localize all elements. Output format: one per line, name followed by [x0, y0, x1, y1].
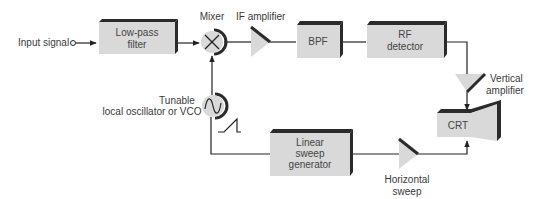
oscillator-icon [202, 94, 227, 118]
sweep-gen-label-line3: generator [289, 159, 332, 170]
oscillator-label-line1: Tunable [159, 95, 195, 106]
linear-sweep-generator-block: Linear sweep generator [270, 129, 353, 176]
crt-block: CRT [437, 100, 501, 141]
spectrum-analyzer-block-diagram: Input signal Low-pass filter Mixer IF am… [0, 0, 534, 199]
lowpass-label-line1: Low-pass [116, 27, 159, 38]
input-terminal-icon [71, 41, 76, 46]
lowpass-filter-block: Low-pass filter [99, 19, 178, 54]
mixer-icon [201, 30, 226, 54]
rf-detector-block: RF detector [367, 21, 447, 58]
sweep-gen-label-line2: sweep [296, 148, 325, 159]
oscillator-label-line2: local oscillator or VCO [103, 106, 202, 117]
crt-label: CRT [448, 120, 468, 131]
bpf-block: BPF [297, 21, 343, 58]
sweep-gen-label-line1: Linear [296, 137, 324, 148]
rf-detector-label-line1: RF [398, 29, 411, 40]
horizontal-sweep-label-line1: Horizontal [384, 174, 429, 185]
lowpass-label-line2: filter [128, 39, 148, 50]
mixer-label: Mixer [200, 11, 225, 22]
rf-detector-label-line2: detector [387, 41, 424, 52]
vertical-amplifier-label-line1: Vertical [490, 73, 523, 84]
if-amplifier-label: IF amplifier [236, 11, 286, 22]
sawtooth-wave-icon [218, 119, 241, 132]
if-amplifier-icon [251, 27, 270, 57]
horizontal-sweep-label-line2: sweep [393, 186, 422, 197]
bpf-label: BPF [308, 36, 327, 47]
vertical-amplifier-icon [455, 74, 485, 92]
horizontal-sweep-amplifier-icon [399, 139, 418, 169]
input-signal-label: Input signal [18, 37, 69, 48]
vertical-amplifier-label-line2: amplifier [486, 85, 524, 96]
